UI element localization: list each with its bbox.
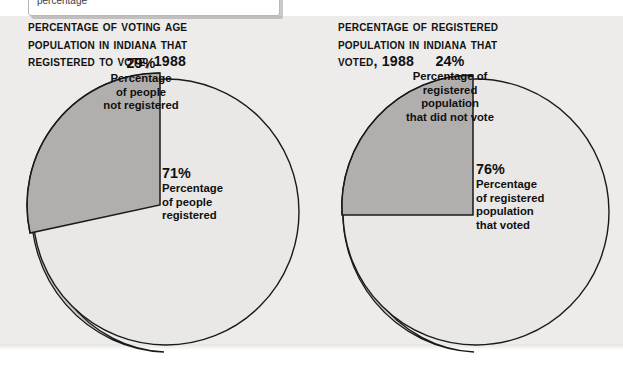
slice-desc-76-line-1: Percentage bbox=[476, 178, 616, 192]
slice-percent-24: 24% bbox=[364, 52, 536, 70]
slice-desc-76-line-2: of registered bbox=[476, 192, 616, 206]
slice-desc-29-line-3: not registered bbox=[66, 99, 216, 113]
chart-title-left-line-2: Population in Indiana That bbox=[28, 36, 187, 52]
slice-desc-71-line-3: registered bbox=[162, 209, 292, 223]
chart-title-right-line-2: Population in Indiana That bbox=[338, 36, 497, 52]
slice-desc-76-line-4: that voted bbox=[476, 219, 616, 233]
slice-percent-71: 71% bbox=[162, 164, 292, 182]
slice-label-71-percent: 71% Percentage of people registered bbox=[162, 164, 292, 223]
slice-desc-24-line-3: population bbox=[364, 97, 536, 111]
slice-label-29-percent: 29% Percentage of people not registered bbox=[66, 54, 216, 113]
clipped-caption-text: percentage bbox=[37, 0, 87, 6]
slice-desc-76-line-3: population bbox=[476, 205, 616, 219]
slice-label-24-percent: 24% Percentage of registered population … bbox=[364, 52, 536, 124]
pie-chart-voting-age-registered: Percentage of Voting Age Population in I… bbox=[14, 18, 314, 358]
clipped-caption-box: percentage bbox=[28, 0, 280, 16]
slice-percent-76: 76% bbox=[476, 160, 616, 178]
pie-chart-registered-voted: Percentage of Registered Population in I… bbox=[324, 18, 623, 358]
slice-percent-29: 29% bbox=[66, 54, 216, 72]
figure-page: percentage Percentage of Voting Age Popu… bbox=[0, 0, 623, 372]
slice-desc-71-line-1: Percentage bbox=[162, 182, 292, 196]
chart-title-right-line-1: Percentage of Registered bbox=[338, 18, 498, 34]
slice-desc-29-line-1: Percentage bbox=[66, 72, 216, 86]
slice-desc-71-line-2: of people bbox=[162, 196, 292, 210]
slice-desc-24-line-4: that did not vote bbox=[364, 111, 536, 125]
slice-desc-24-line-2: registered bbox=[364, 84, 536, 98]
slice-label-76-percent: 76% Percentage of registered population … bbox=[476, 160, 616, 232]
slice-desc-29-line-2: of people bbox=[66, 86, 216, 100]
chart-title-left-line-1: Percentage of Voting Age bbox=[28, 18, 187, 34]
slice-desc-24-line-1: Percentage of bbox=[364, 70, 536, 84]
